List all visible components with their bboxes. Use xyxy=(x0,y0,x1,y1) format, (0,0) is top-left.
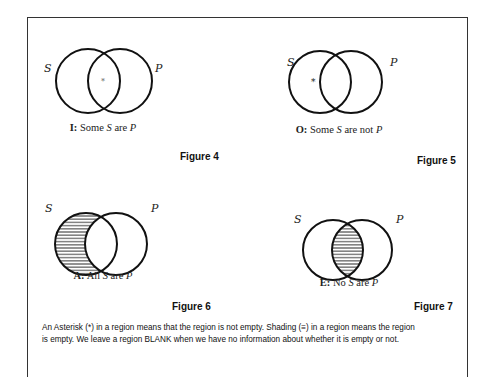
caption-figure-6: A: All S are P xyxy=(74,270,133,281)
legend-footnote: An Asterisk (*) in a region means that t… xyxy=(42,322,462,345)
footnote-line-1: An Asterisk (*) in a region means that t… xyxy=(42,322,462,334)
set-label-p: P xyxy=(396,213,403,226)
figure-label-4: Figure 4 xyxy=(180,151,219,162)
caption-figure-7: E: No S are P xyxy=(320,277,378,288)
set-label-s: S xyxy=(287,56,295,69)
venn-figure-7 xyxy=(303,220,392,280)
set-label-p: P xyxy=(151,202,158,215)
set-label-s: S xyxy=(294,213,302,226)
set-label-s: S xyxy=(44,62,52,75)
asterisk-marker: * xyxy=(311,77,316,87)
asterisk-marker: * xyxy=(101,77,105,86)
figure-label-7: Figure 7 xyxy=(414,301,453,312)
footnote-line-2: is empty. We leave a region BLANK when w… xyxy=(42,334,462,346)
figure-label-6: Figure 6 xyxy=(172,301,211,312)
caption-figure-5: O: Some S are not P xyxy=(296,124,383,135)
set-label-p: P xyxy=(155,62,162,75)
set-label-p: P xyxy=(390,56,397,69)
caption-figure-4: I: Some S are P xyxy=(70,122,137,133)
venn-figure-5 xyxy=(289,51,382,113)
figure-label-5: Figure 5 xyxy=(417,155,456,166)
set-label-s: S xyxy=(45,202,53,215)
